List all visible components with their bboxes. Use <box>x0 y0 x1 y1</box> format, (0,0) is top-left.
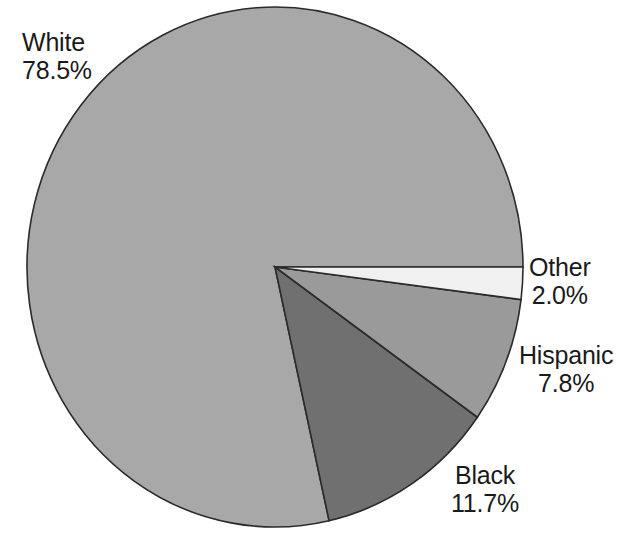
pie-slices-group <box>27 7 523 527</box>
pie-chart-figure: White 78.5% Other 2.0% Hispanic 7.8% Bla… <box>0 0 635 543</box>
slice-label-hispanic: Hispanic 7.8% <box>519 341 613 397</box>
slice-label-other-name: Other <box>529 253 591 281</box>
slice-label-black-name: Black <box>451 461 519 489</box>
slice-label-other-value: 2.0% <box>529 281 591 309</box>
slice-label-black: Black 11.7% <box>451 461 519 517</box>
slice-label-other: Other 2.0% <box>529 253 591 309</box>
slice-label-white-name: White <box>22 28 92 56</box>
slice-label-black-value: 11.7% <box>451 489 519 517</box>
slice-label-white: White 78.5% <box>22 28 92 84</box>
slice-label-hispanic-value: 7.8% <box>519 369 613 397</box>
slice-label-white-value: 78.5% <box>22 56 92 84</box>
slice-label-hispanic-name: Hispanic <box>519 341 613 369</box>
